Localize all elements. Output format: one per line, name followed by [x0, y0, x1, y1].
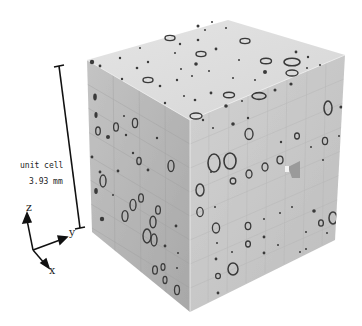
scale-bar-label-name: unit cell [20, 161, 63, 170]
scale-bar [54, 65, 85, 229]
y-arrow-icon [58, 236, 67, 244]
cube [87, 20, 345, 312]
axis-label-x: x [49, 264, 55, 277]
axis-label-z: z [26, 201, 32, 214]
axes-triad [23, 213, 67, 268]
scale-bar-label-value: 3.93 mm [29, 177, 63, 186]
axis-label-y: y [69, 226, 75, 239]
z-arrow-icon [23, 213, 31, 223]
